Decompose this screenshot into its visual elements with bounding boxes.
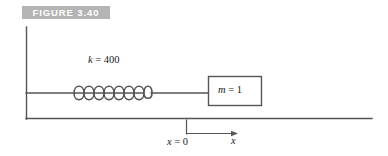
spring-constant-label: k = 400 [88, 55, 120, 66]
mass-equals: = [226, 84, 237, 95]
origin-label: x = 0 [167, 137, 188, 148]
spring-mass-diagram [0, 0, 388, 156]
mass-label: m = 1 [218, 85, 242, 96]
spring-constant-value: 400 [104, 54, 120, 65]
mass-value: 1 [237, 84, 242, 95]
origin-value: 0 [183, 136, 188, 147]
spring-constant-equals: = [93, 54, 104, 65]
x-axis-label: x [231, 136, 236, 147]
mass-symbol: m [218, 84, 226, 95]
origin-equals: = [172, 136, 183, 147]
spring-coil [74, 86, 152, 100]
x-axis-symbol: x [231, 135, 236, 146]
figure-container: FIGURE 3.40 k = 400 m = 1 x = 0 x [0, 0, 388, 156]
